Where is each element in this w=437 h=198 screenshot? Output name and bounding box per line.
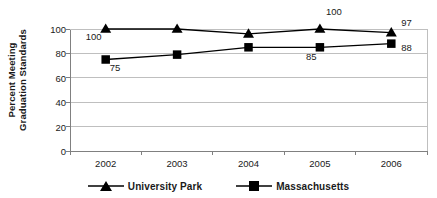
data-point-label: 75 [110,62,121,73]
data-point-label: 85 [306,51,317,62]
marker-triangle [314,23,325,32]
triangle-marker-icon [88,179,124,193]
data-point-label: 100 [86,31,102,42]
marker-square [101,55,110,64]
legend-item-university-park[interactable]: University Park [88,179,202,193]
legend-item-massachusetts[interactable]: Massachusetts [236,179,349,193]
chart-legend: University Park Massachusetts [0,176,437,196]
data-point-label: 100 [326,6,342,17]
data-point-label: 97 [401,17,412,28]
marker-square [316,43,325,52]
marker-square [387,39,396,48]
legend-label-massachusetts: Massachusetts [276,181,349,192]
marker-square [173,50,182,59]
legend-label-university-park: University Park [128,181,202,192]
marker-triangle [100,23,111,32]
marker-triangle [172,23,183,32]
plot-area [0,0,437,198]
marker-square [244,43,253,52]
line-chart: Percent Meeting Graduation Standards 020… [0,0,437,198]
data-point-label: 88 [401,42,412,53]
square-marker-icon [236,179,272,193]
marker-triangle [386,27,397,36]
